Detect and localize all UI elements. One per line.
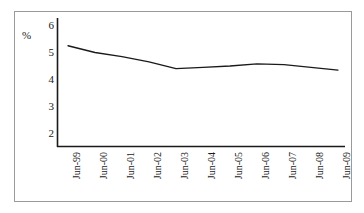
x-tick-text: Jun-08 [315, 152, 325, 179]
x-tick-text: Jun-00 [99, 152, 109, 179]
x-tick-label: Jun-09 [342, 152, 352, 179]
x-tick-label: Jun-02 [153, 152, 163, 179]
x-tick-label: Jun-06 [261, 152, 271, 179]
x-tick-label: Jun-00 [99, 152, 109, 179]
x-tick-text: Jun-05 [234, 152, 244, 179]
y-axis-unit-label: % [22, 29, 31, 41]
x-tick-label: Jun-05 [234, 152, 244, 179]
y-tick-label: 2 [40, 128, 54, 139]
x-tick-text: Jun-04 [207, 152, 217, 179]
x-tick-text: Jun-06 [261, 152, 271, 179]
x-tick-text: Jun-99 [72, 152, 82, 179]
x-tick-label: Jun-04 [207, 152, 217, 179]
x-tick-text: Jun-03 [180, 152, 190, 179]
y-tick-label: 6 [40, 20, 54, 31]
x-tick-text: Jun-02 [153, 152, 163, 179]
x-tick-label: Jun-03 [180, 152, 190, 179]
chart-figure: % 6 5 4 3 2 Jun-99 Jun-00 Jun-01 Jun-02 … [0, 0, 364, 213]
x-tick-label: Jun-99 [72, 152, 82, 179]
y-tick-label: 4 [40, 74, 54, 85]
x-tick-text: Jun-07 [288, 152, 298, 179]
x-tick-label: Jun-07 [288, 152, 298, 179]
x-tick-text: Jun-01 [126, 152, 136, 179]
y-tick-label: 5 [40, 47, 54, 58]
y-tick-label: 3 [40, 101, 54, 112]
x-tick-text: Jun-09 [342, 152, 352, 179]
x-tick-label: Jun-08 [315, 152, 325, 179]
x-tick-label: Jun-01 [126, 152, 136, 179]
